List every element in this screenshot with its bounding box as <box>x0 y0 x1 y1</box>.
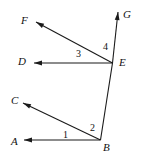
ray-e-to-g-arrow-icon <box>115 12 120 20</box>
angle-label-2: 2 <box>90 123 95 133</box>
point-label-d: D <box>18 56 26 67</box>
angle-label-3: 3 <box>76 49 81 59</box>
ray-b-to-c-arrow-icon <box>23 103 31 109</box>
segment-b-e <box>101 63 113 140</box>
ray-e-to-f <box>36 22 113 63</box>
ray-b-to-c <box>23 103 101 140</box>
ray-b-to-a-arrow-icon <box>24 138 32 143</box>
segments-group <box>101 63 113 140</box>
ray-e-to-f-arrow-icon <box>36 22 44 28</box>
rays-group <box>23 12 120 142</box>
point-label-a: A <box>11 136 18 147</box>
angle-label-1: 1 <box>63 130 68 140</box>
ray-e-to-d-arrow-icon <box>34 61 42 66</box>
point-label-c: C <box>11 95 18 106</box>
angle-label-4: 4 <box>103 42 108 52</box>
geometry-figure: FGDECAB 1234 <box>0 0 141 159</box>
point-label-b: B <box>103 142 110 153</box>
point-label-f: F <box>21 15 28 26</box>
point-label-e: E <box>119 57 126 68</box>
point-label-g: G <box>123 9 131 20</box>
